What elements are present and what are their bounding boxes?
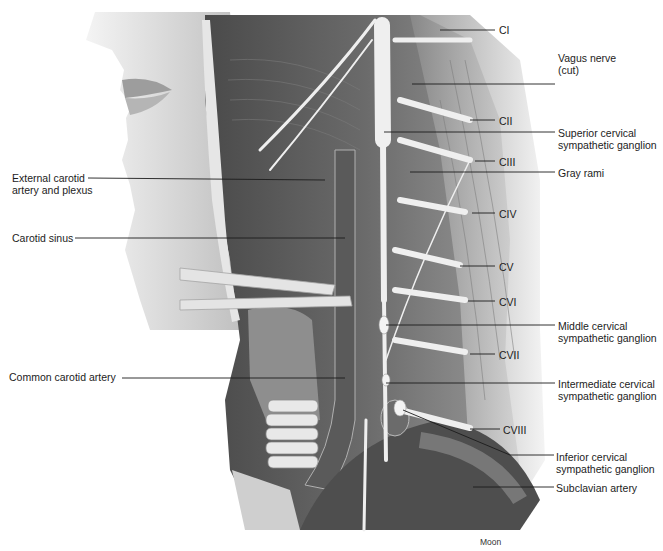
- label-line: CVII: [499, 349, 519, 361]
- label-c1: CI: [499, 24, 510, 36]
- label-external-carotid: External carotidartery and plexus: [12, 172, 93, 196]
- label-line: Inferior cervical: [556, 451, 655, 463]
- label-line: Intermediate cervical: [558, 378, 657, 390]
- label-line: CIII: [499, 156, 515, 168]
- label-line: CVIII: [503, 424, 526, 436]
- label-line: Middle cervical: [558, 320, 657, 332]
- label-line: CIV: [499, 208, 517, 220]
- label-c8: CVIII: [503, 424, 526, 436]
- label-gray-rami: Gray rami: [558, 167, 604, 179]
- label-middle-ganglion: Middle cervicalsympathetic ganglion: [558, 320, 657, 344]
- anatomy-figure: External carotidartery and plexusCarotid…: [0, 0, 663, 551]
- label-line: CV: [499, 261, 514, 273]
- label-line: Common carotid artery: [9, 371, 116, 383]
- label-c6: CVI: [499, 296, 517, 308]
- label-c4: CIV: [499, 208, 517, 220]
- label-subclavian: Subclavian artery: [556, 482, 637, 494]
- illustrator-credit: Moon: [480, 537, 501, 547]
- label-line: artery and plexus: [12, 184, 93, 196]
- label-line: CVI: [499, 296, 517, 308]
- label-common-carotid: Common carotid artery: [9, 371, 116, 383]
- label-c5: CV: [499, 261, 514, 273]
- label-line: Vagus nerve: [558, 52, 616, 64]
- label-line: CI: [499, 24, 510, 36]
- label-line: Subclavian artery: [556, 482, 637, 494]
- label-line: External carotid: [12, 172, 93, 184]
- label-line: Carotid sinus: [12, 232, 73, 244]
- label-line: Gray rami: [558, 167, 604, 179]
- label-line: CII: [499, 115, 512, 127]
- label-line: Superior cervical: [558, 127, 657, 139]
- label-superior-ganglion: Superior cervicalsympathetic ganglion: [558, 127, 657, 151]
- label-line: sympathetic ganglion: [558, 332, 657, 344]
- label-intermediate-ganglion: Intermediate cervicalsympathetic ganglio…: [558, 378, 657, 402]
- label-line: (cut): [558, 64, 616, 76]
- label-line: sympathetic ganglion: [558, 390, 657, 402]
- label-c7: CVII: [499, 349, 519, 361]
- label-line: sympathetic ganglion: [558, 139, 657, 151]
- label-vagus: Vagus nerve(cut): [558, 52, 616, 76]
- label-c3: CIII: [499, 156, 515, 168]
- label-inferior-ganglion: Inferior cervicalsympathetic ganglion: [556, 451, 655, 475]
- label-c2: CII: [499, 115, 512, 127]
- label-line: sympathetic ganglion: [556, 463, 655, 475]
- label-carotid-sinus: Carotid sinus: [12, 232, 73, 244]
